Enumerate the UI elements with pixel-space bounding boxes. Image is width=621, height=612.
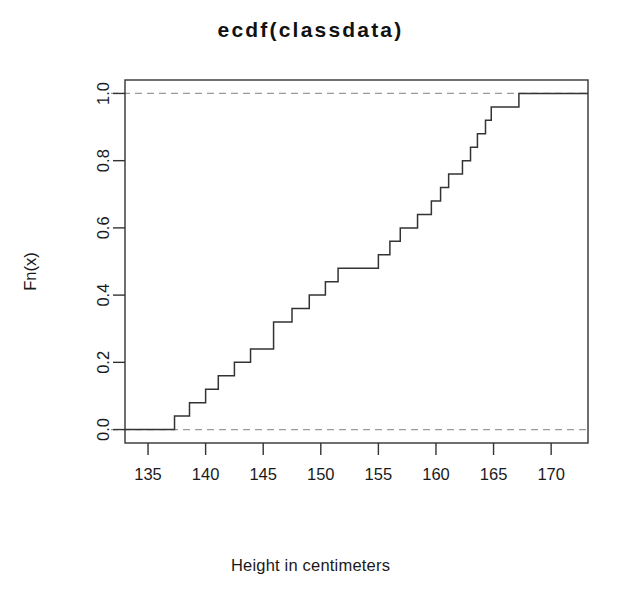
y-tick-label-1.0: 1.0 <box>94 82 112 105</box>
y-tick-label-0.6: 0.6 <box>94 216 112 239</box>
y-axis-label: Fn(x) <box>21 212 40 332</box>
ecdf-step-line-layer <box>125 93 588 429</box>
y-tick-label-0.0: 0.0 <box>94 418 112 441</box>
y-tick-label-0.2: 0.2 <box>94 351 112 374</box>
x-tick-label-145: 145 <box>249 465 277 483</box>
x-tick-label-170: 170 <box>537 465 565 483</box>
ecdf-step-line <box>125 93 588 429</box>
axis-tick-labels-layer: 1351401451501551601651700.00.20.40.60.81… <box>94 82 565 483</box>
x-tick-label-150: 150 <box>307 465 335 483</box>
x-tick-label-155: 155 <box>365 465 393 483</box>
chart-canvas: 1351401451501551601651700.00.20.40.60.81… <box>0 0 621 612</box>
x-tick-label-160: 160 <box>422 465 450 483</box>
x-tick-label-140: 140 <box>192 465 220 483</box>
page-title: ecdf(classdata) <box>0 18 621 42</box>
y-tick-label-0.8: 0.8 <box>94 149 112 172</box>
plot-frame <box>125 80 588 443</box>
axis-ticks-layer <box>113 93 551 455</box>
x-tick-label-135: 135 <box>134 465 162 483</box>
reference-lines-layer <box>111 93 590 429</box>
plot-box <box>125 80 588 443</box>
x-axis-label: Height in centimeters <box>0 556 621 575</box>
y-tick-label-0.4: 0.4 <box>94 284 112 307</box>
x-tick-label-165: 165 <box>480 465 508 483</box>
ecdf-plot: ecdf(classdata) Fn(x) Height in centimet… <box>0 0 621 612</box>
